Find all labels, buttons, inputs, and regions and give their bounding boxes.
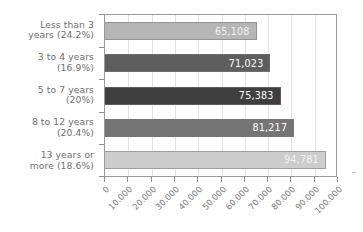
category-label: 3 to 4 years (16.9%) bbox=[0, 47, 99, 80]
x-axis-tick bbox=[244, 177, 245, 182]
stray-mark bbox=[352, 172, 356, 173]
bar-chart: Less than 3 years (24.2%) 3 to 4 years (… bbox=[0, 0, 363, 232]
bar[interactable]: 75,383 bbox=[105, 87, 281, 105]
bar-value-label: 71,023 bbox=[229, 58, 270, 69]
bar-slot: 75,383 bbox=[105, 79, 336, 111]
bar-value-label: 65,108 bbox=[215, 26, 256, 37]
x-axis-tick bbox=[127, 177, 128, 182]
bar[interactable]: 65,108 bbox=[105, 22, 257, 40]
bar[interactable]: 71,023 bbox=[105, 54, 270, 72]
bar-slot: 94,781 bbox=[105, 144, 336, 176]
x-axis-tick bbox=[104, 177, 105, 182]
bar-slot: 81,217 bbox=[105, 112, 336, 144]
category-label: 5 to 7 years (20%) bbox=[0, 79, 99, 112]
plot-area: 65,108 71,023 75,383 81,217 94,7 bbox=[104, 14, 337, 177]
category-label: 8 to 12 years (20.4%) bbox=[0, 112, 99, 145]
x-axis-tick bbox=[174, 177, 175, 182]
x-axis-tick bbox=[151, 177, 152, 182]
x-axis-tick bbox=[221, 177, 222, 182]
bar[interactable]: 81,217 bbox=[105, 119, 294, 137]
x-axis-tick bbox=[337, 177, 338, 182]
bar-value-label: 94,781 bbox=[284, 154, 325, 165]
bar-value-label: 75,383 bbox=[239, 90, 280, 101]
x-axis-tick bbox=[314, 177, 315, 182]
category-label: Less than 3 years (24.2%) bbox=[0, 14, 99, 47]
x-axis-tick bbox=[290, 177, 291, 182]
category-axis-labels: Less than 3 years (24.2%) 3 to 4 years (… bbox=[0, 14, 99, 177]
bar-slot: 71,023 bbox=[105, 47, 336, 79]
x-axis-tick bbox=[197, 177, 198, 182]
bar-series: 65,108 71,023 75,383 81,217 94,7 bbox=[105, 15, 336, 176]
bar-value-label: 81,217 bbox=[252, 122, 293, 133]
bar[interactable]: 94,781 bbox=[105, 151, 326, 169]
x-axis-tick bbox=[267, 177, 268, 182]
bar-slot: 65,108 bbox=[105, 15, 336, 47]
category-label: 13 years or more (18.6%) bbox=[0, 144, 99, 177]
